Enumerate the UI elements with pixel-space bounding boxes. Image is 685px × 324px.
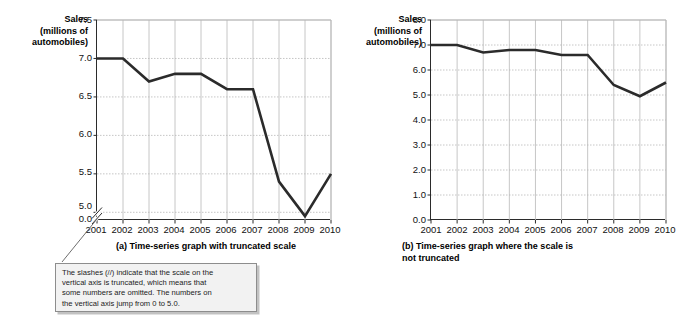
panel-a-ytick-0.0: 0.0 xyxy=(58,213,92,224)
panel-a-plot-area xyxy=(96,20,330,220)
panel-a-y-axis-title-line2: (millions of xyxy=(40,26,88,36)
callout-note: The slashes (//) indicate that the scale… xyxy=(55,263,257,312)
callout-line2: vertical axis is truncated, which means … xyxy=(62,278,250,288)
panel-a-ytick-6.5: 6.5 xyxy=(58,90,92,101)
panel-b-ytick-2.0: 2.0 xyxy=(392,164,426,175)
panel-a-ytick-5.5: 5.5 xyxy=(58,166,92,177)
panel-b-ytick-8.0: 8.0 xyxy=(392,14,426,25)
panel-b-plot-area xyxy=(430,20,665,220)
callout-line3: some numbers are omitted. The numbers on xyxy=(62,288,250,298)
panel-b-ytick-5.0: 5.0 xyxy=(392,89,426,100)
panel-a-plot-svg xyxy=(97,20,331,220)
panel-b-xtick-2010: 2010 xyxy=(650,224,680,235)
panel-b-y-axis-title-line2: (millions of xyxy=(374,26,422,36)
figure-root: Sales (millions of automobiles) 7.5 7.0 … xyxy=(0,0,685,324)
panel-b-ytick-6.0: 6.0 xyxy=(392,64,426,75)
panel-b-ytick-7.0: 7.0 xyxy=(392,39,426,50)
panel-a-ytick-7.5: 7.5 xyxy=(58,14,92,25)
panel-b-caption-line1: (b) Time-series graph where the scale is xyxy=(402,241,573,251)
panel-b-plot-svg xyxy=(431,20,666,220)
panel-a-caption: (a) Time-series graph with truncated sca… xyxy=(116,241,346,253)
callout-line4: the vertical axis jump from 0 to 5.0. xyxy=(62,299,250,309)
panel-b-ytick-3.0: 3.0 xyxy=(392,139,426,150)
panel-b-ytick-4.0: 4.0 xyxy=(392,114,426,125)
panel-a-xtick-2010: 2010 xyxy=(315,224,345,235)
panel-a-y-axis-title-line3: automobiles) xyxy=(32,37,88,47)
panel-b-caption: (b) Time-series graph where the scale is… xyxy=(402,241,652,264)
panel-a-ytick-6.0: 6.0 xyxy=(58,128,92,139)
panel-b-ytick-1.0: 1.0 xyxy=(392,189,426,200)
panel-b-caption-line2: not truncated xyxy=(402,253,460,263)
callout-line1: The slashes (//) indicate that the scale… xyxy=(62,268,250,278)
panel-b-full-scale-chart: Sales (millions of automobiles) 8.0 7.0 … xyxy=(350,0,685,324)
panel-a-ytick-7.0: 7.0 xyxy=(58,52,92,63)
panel-a-ytick-5.0: 5.0 xyxy=(58,200,92,211)
